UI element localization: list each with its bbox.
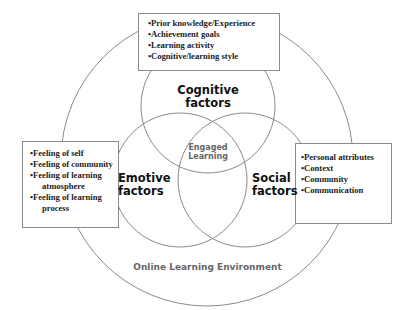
cognitive-item: •Learning activity (148, 40, 279, 51)
emotive-item: •Feeling of self (30, 148, 118, 159)
social-factors-label: Social factors (252, 172, 312, 198)
cognitive-factors-label: Cognitive factors (158, 84, 258, 110)
cognitive-item: •Cognitive/learning style (148, 51, 279, 62)
emotive-item: •Feeling of learning (30, 170, 118, 181)
cognitive-item: •Achievement goals (148, 29, 279, 40)
social-item: •Communication (301, 185, 391, 196)
diagram-canvas: •Prior knowledge/Experience •Achievement… (0, 0, 412, 310)
emotive-factors-label: Emotive factors (118, 172, 188, 198)
social-item: •Personal attributes (301, 152, 391, 163)
social-item: •Context (301, 163, 391, 174)
online-learning-environment-label: Online Learning Environment (120, 262, 295, 272)
emotive-item-continuation: process (30, 203, 118, 214)
cognitive-item: •Prior knowledge/Experience (148, 18, 279, 29)
engaged-learning-label: Engaged Learning (180, 143, 236, 161)
emotive-items-box: •Feeling of self •Feeling of community •… (22, 141, 119, 228)
emotive-item-continuation: atmosphere (30, 181, 118, 192)
social-item: •Community (301, 174, 391, 185)
emotive-item: •Feeling of community (30, 159, 118, 170)
cognitive-items-box: •Prior knowledge/Experience •Achievement… (138, 13, 280, 71)
emotive-item: •Feeling of learning (30, 192, 118, 203)
